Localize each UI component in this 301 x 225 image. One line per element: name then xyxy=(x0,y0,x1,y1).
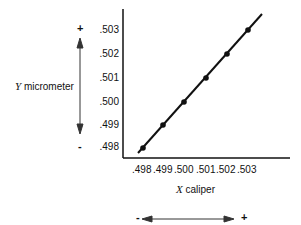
x-direction-arrow-icon xyxy=(142,216,234,222)
x-tick: .501 xyxy=(196,164,215,175)
x-minus-sign: - xyxy=(136,211,140,223)
y-axis-label: Y micrometer xyxy=(15,80,74,92)
data-line xyxy=(138,14,262,153)
y-direction-arrow-icon xyxy=(77,38,83,134)
x-tick: .499 xyxy=(153,164,172,175)
y-tick: .502 xyxy=(100,48,119,59)
y-tick-labels: .503 .502 .501 .500 .499 .498 xyxy=(95,0,119,160)
x-tick: .498 xyxy=(132,164,151,175)
x-tick: .502 xyxy=(216,164,235,175)
x-plus-sign: + xyxy=(241,211,247,223)
y-tick: .499 xyxy=(100,119,119,130)
x-label-text: caliper xyxy=(183,184,215,195)
y-label-text: micrometer xyxy=(21,81,74,92)
x-axis-label: X caliper xyxy=(176,183,215,195)
x-tick: .500 xyxy=(174,164,193,175)
y-tick: .501 xyxy=(100,72,119,83)
x-var: X xyxy=(176,183,183,195)
chart-canvas xyxy=(0,0,301,225)
y-tick: .503 xyxy=(100,24,119,35)
y-tick: .498 xyxy=(100,141,119,152)
y-minus-sign: - xyxy=(78,140,82,152)
y-tick: .500 xyxy=(100,96,119,107)
y-plus-sign: + xyxy=(77,22,83,34)
x-tick: .503 xyxy=(237,164,256,175)
